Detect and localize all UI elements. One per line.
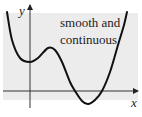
y-axis-label: y <box>19 3 25 19</box>
annotation-line-2: continuous <box>60 31 120 48</box>
x-axis-label: x <box>131 95 137 111</box>
annotation-text: smooth and continuous <box>60 14 120 48</box>
annotation-line-1: smooth and <box>60 14 120 31</box>
